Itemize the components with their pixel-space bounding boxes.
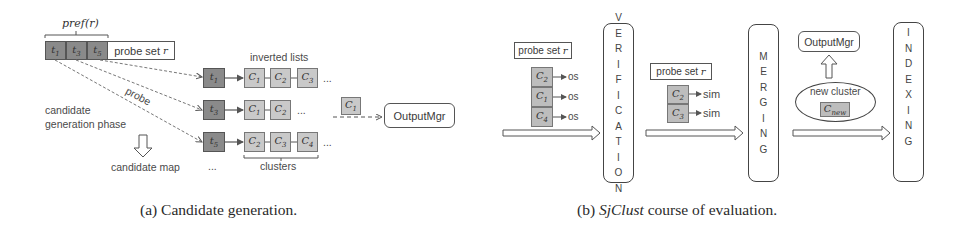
cluster-cell: C3: [297, 68, 318, 88]
sim-label: sim: [703, 88, 720, 100]
emitted-cluster: C1: [341, 97, 361, 115]
os-label: os: [568, 111, 579, 122]
cluster-cell: C2: [667, 85, 689, 104]
ellipsis: ...: [297, 104, 306, 116]
prefix-token-3: t5: [87, 41, 108, 60]
cluster-cell: C3: [667, 104, 689, 123]
cluster-cell: C2: [531, 67, 553, 87]
pref-label: pref(r): [62, 17, 99, 30]
inverted-lists-label: inverted lists: [250, 51, 308, 63]
cluster-cell: C1: [531, 87, 553, 107]
phase-label-line2: generation phase: [45, 118, 126, 130]
ellipsis: ...: [323, 136, 332, 148]
candidate-map-label: candidate map: [111, 161, 180, 173]
prefix-token-2: t3: [66, 41, 87, 60]
inverted-list-token: t3: [203, 100, 225, 120]
inverted-list-token: t5: [203, 132, 225, 152]
cluster-cell: C2: [244, 132, 265, 152]
ellipsis: ...: [208, 160, 217, 172]
cluster-cell: C1: [244, 68, 265, 88]
clusters-label: clusters: [260, 160, 296, 172]
cluster-cell: C1: [244, 100, 265, 120]
caption-b: (b) SjClust course of evaluation.: [577, 201, 777, 219]
prefix-token-1: t1: [45, 41, 66, 60]
inverted-list-token: t1: [203, 68, 225, 88]
cluster-cell: C4: [297, 132, 318, 152]
output-mgr-box: OutputMgr: [384, 103, 455, 128]
cluster-cell: C2: [270, 68, 291, 88]
merging-stage: M E R G I N G: [748, 24, 779, 182]
caption-a: (a) Candidate generation.: [140, 201, 297, 219]
new-cluster-cell: Cnew: [820, 102, 850, 117]
indexing-stage: I N D E X I N G: [893, 22, 924, 182]
os-label: os: [568, 71, 579, 82]
sim-label: sim: [703, 107, 720, 119]
new-cluster-label: new cluster: [810, 86, 861, 97]
output-mgr-box: OutputMgr: [798, 31, 860, 52]
cluster-cell: C4: [531, 107, 553, 127]
os-label: os: [568, 91, 579, 102]
cluster-cell: C2: [270, 100, 291, 120]
probe-set-box: probe set r: [107, 41, 175, 60]
probe-label: probe: [124, 84, 153, 107]
ellipsis: ...: [323, 72, 332, 84]
phase-label-line1: candidate: [45, 104, 91, 116]
probe-set-box: probe set r: [650, 63, 712, 80]
probe-set-box: probe set r: [514, 42, 572, 59]
verification-stage: V E R I F I C A T I O N: [603, 23, 634, 183]
cluster-cell: C3: [270, 132, 291, 152]
